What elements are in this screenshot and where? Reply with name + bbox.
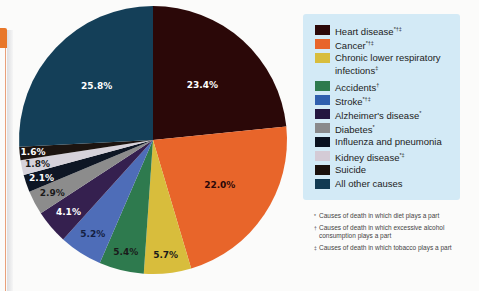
legend-item: Kidney disease*‡ — [315, 150, 405, 163]
pie-slices — [19, 6, 287, 274]
legend-item: Stroke*†‡ — [315, 94, 371, 107]
legend-swatch — [315, 151, 330, 161]
legend-swatch — [315, 109, 330, 119]
legend-swatch — [315, 25, 330, 35]
pie-slice-label: 22.0% — [204, 180, 235, 190]
legend-item: Diabetes* — [315, 122, 375, 135]
legend-label-text: Heart disease — [335, 26, 394, 37]
pie-slice-label: 2.1% — [29, 173, 54, 183]
pie-slice-label: 1.8% — [25, 159, 50, 169]
legend-swatch — [315, 137, 330, 147]
legend-swatch — [315, 123, 330, 133]
footnote-marks: ‡ — [375, 65, 378, 71]
legend-label: Suicide — [335, 164, 366, 175]
legend-label: Heart disease*†‡ — [335, 24, 402, 37]
legend-label-text: Stroke — [335, 96, 362, 107]
legend-item: Suicide — [315, 164, 366, 175]
footnote-marks: *†‡ — [362, 96, 370, 102]
footnote-marks: *‡ — [399, 152, 404, 158]
footnote-marks: † — [376, 82, 379, 88]
legend-label: Chronic lower respiratory infections‡ — [335, 52, 450, 76]
pie-slice-label: 5.7% — [153, 250, 178, 260]
legend-swatch — [315, 81, 330, 91]
footnote: ‡Causes of death in which tobacco plays … — [314, 244, 464, 253]
footnotes: *Causes of death in which diet plays a p… — [314, 212, 464, 255]
footnote-marks: *†‡ — [394, 26, 402, 32]
legend-label-text: Chronic lower respiratory infections — [335, 52, 441, 76]
legend-label-text: Cancer — [335, 40, 366, 51]
legend-label: Diabetes* — [335, 122, 375, 135]
legend-item: Influenza and pneumonia — [315, 136, 442, 147]
legend-swatch — [315, 179, 330, 189]
pie-slice-heart-disease — [153, 6, 286, 140]
legend-item: Alzheimer's disease* — [315, 108, 421, 121]
pie-slice-label: 5.4% — [113, 247, 138, 257]
footnote: *Causes of death in which diet plays a p… — [314, 212, 464, 221]
legend-swatch — [315, 165, 330, 175]
pie-slice-label: 4.1% — [56, 207, 81, 217]
legend-label: Kidney disease*‡ — [335, 150, 405, 163]
footnote-marks: *†‡ — [366, 40, 374, 46]
legend-label: Stroke*†‡ — [335, 94, 371, 107]
legend-label-text: Kidney disease — [335, 152, 399, 163]
legend-label: Cancer*†‡ — [335, 38, 374, 51]
legend: Heart disease*†‡Cancer*†‡Chronic lower r… — [303, 14, 460, 200]
legend-label-text: Diabetes — [335, 124, 373, 135]
footnote-text: Causes of death in which diet plays a pa… — [319, 212, 439, 221]
pie-slice-label: 23.4% — [187, 80, 218, 90]
legend-label-text: Influenza and pneumonia — [335, 136, 442, 147]
legend-label: Influenza and pneumonia — [335, 136, 442, 147]
legend-item: Accidents† — [315, 80, 379, 93]
legend-label-text: Alzheimer's disease — [335, 110, 419, 121]
legend-item: Chronic lower respiratory infections‡ — [315, 52, 450, 76]
pie-slice-label: 1.6% — [21, 147, 46, 157]
legend-label: All other causes — [335, 178, 403, 189]
footnote-marks: * — [373, 124, 375, 130]
legend-item: Cancer*†‡ — [315, 38, 374, 51]
legend-swatch — [315, 53, 330, 63]
legend-label-text: Accidents — [335, 82, 376, 93]
legend-label-text: Suicide — [335, 164, 366, 175]
footnote-marks: * — [419, 110, 421, 116]
footnote-text: Causes of death in which tobacco plays a… — [319, 244, 452, 253]
footnote: †Causes of death in which excessive alco… — [314, 224, 464, 241]
bottom-caption-cutoff — [270, 284, 479, 291]
pie-slice-label: 2.9% — [40, 188, 65, 198]
legend-swatch — [315, 95, 330, 105]
pie-slice-all-other-causes — [19, 6, 153, 147]
legend-item: Heart disease*†‡ — [315, 24, 402, 37]
legend-label: Accidents† — [335, 80, 379, 93]
legend-label: Alzheimer's disease* — [335, 108, 421, 121]
legend-item: All other causes — [315, 178, 403, 189]
legend-swatch — [315, 39, 330, 49]
pie-slice-label: 5.2% — [80, 229, 105, 239]
pie-slice-label: 25.8% — [81, 81, 112, 91]
footnote-text: Causes of death in which excessive alcoh… — [319, 224, 464, 241]
legend-label-text: All other causes — [335, 178, 403, 189]
